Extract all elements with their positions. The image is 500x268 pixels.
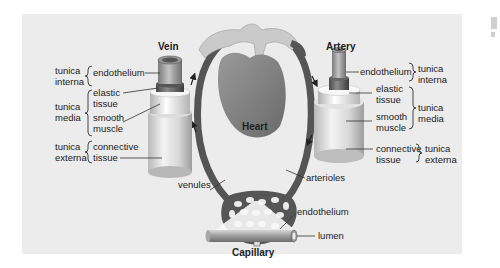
artery-elastic-tissue-label: elastic (376, 83, 403, 94)
arterioles-label: arterioles (306, 172, 345, 183)
vein-tunica-interna-label: interna (55, 76, 85, 87)
arrow-icon (191, 76, 194, 85)
lumen-label: lumen (318, 230, 344, 241)
capillary-title: Capillary (232, 247, 275, 258)
capillary-tube (206, 230, 298, 242)
artery-tunica-media-label: tunica (418, 102, 444, 113)
vein-elastic-tissue-label: tissue (93, 98, 118, 109)
artery-connective-tissue-label: tissue (376, 154, 401, 165)
vein-endothelium-label: endothelium (93, 67, 145, 78)
artery-tunica-media-label: media (418, 113, 445, 124)
artery-tunica-interna-label: interna (418, 74, 448, 85)
vein-elastic-tissue-label: elastic (93, 87, 120, 98)
artery-connective-tissue-label: connective (376, 143, 421, 154)
heart-label: Heart (242, 121, 268, 132)
vein-connective-tissue-label: tissue (93, 152, 118, 163)
vein-tunica-media-label: tunica (55, 101, 81, 112)
artery-tunica-interna-label: tunica (418, 63, 444, 74)
artery-elastic-tissue-label: tissue (376, 94, 401, 105)
vein-tunica-media-label: media (55, 112, 82, 123)
artery-tunica-externa-label: externa (425, 154, 457, 165)
vein-title: Vein (158, 41, 179, 52)
vein-connective-tissue-label: connective (93, 141, 138, 152)
vein-tunica-interna-label: tunica (55, 65, 81, 76)
venules-label: venules (178, 179, 211, 190)
circulatory-diagram: Heart Vein tunica interna endothelium tu… (0, 0, 500, 268)
capillary-endothelium-label: endothelium (297, 206, 349, 217)
artery-smooth-muscle-label: muscle (376, 122, 406, 133)
artery-title: Artery (326, 41, 356, 52)
artery-cylinder (314, 47, 364, 163)
vein-cylinder (148, 56, 192, 178)
artery-smooth-muscle-label: smooth (376, 111, 407, 122)
vein-tunica-externa-label: externa (55, 152, 87, 163)
vein-tunica-externa-label: tunica (55, 141, 81, 152)
artery-endothelium-label: endothelium (360, 66, 412, 77)
vein-smooth-muscle-label: muscle (93, 123, 123, 134)
vein-smooth-muscle-label: smooth (93, 112, 124, 123)
artery-tunica-externa-label: tunica (425, 143, 451, 154)
vein-labels: tunica interna endothelium tunica media … (55, 65, 162, 163)
